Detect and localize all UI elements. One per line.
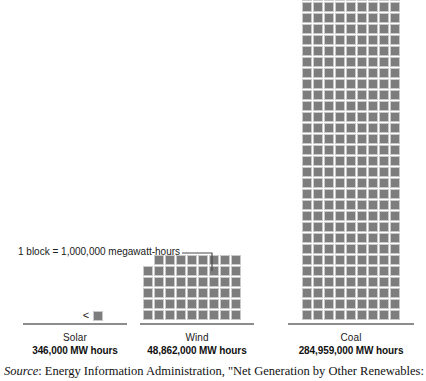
column-name-solar: Solar — [16, 332, 134, 344]
unit-block — [346, 167, 356, 177]
unit-block — [368, 255, 378, 265]
unit-block — [368, 244, 378, 254]
unit-block — [346, 68, 356, 78]
unit-block — [220, 299, 230, 309]
unit-block — [335, 13, 345, 23]
unit-block — [324, 222, 334, 232]
unit-block — [368, 134, 378, 144]
unit-block — [209, 288, 219, 298]
unit-block — [368, 233, 378, 243]
unit-block — [379, 2, 389, 12]
unit-block — [313, 0, 323, 1]
unit-block — [390, 266, 400, 276]
unit-block — [143, 299, 153, 309]
unit-block — [390, 101, 400, 111]
unit-block — [313, 35, 323, 45]
unit-block — [313, 145, 323, 155]
unit-block — [209, 277, 219, 287]
unit-block — [335, 266, 345, 276]
unit-block — [390, 156, 400, 166]
unit-block — [324, 79, 334, 89]
unit-block — [357, 123, 367, 133]
unit-block — [313, 90, 323, 100]
unit-block — [357, 167, 367, 177]
unit-block — [165, 277, 175, 287]
unit-block — [324, 244, 334, 254]
unit-block — [357, 2, 367, 12]
block-row — [302, 233, 400, 243]
unit-block — [220, 266, 230, 276]
unit-block — [154, 299, 164, 309]
column-name-coal: Coal — [276, 332, 426, 344]
unit-block — [390, 13, 400, 23]
unit-block — [302, 156, 312, 166]
unit-block — [335, 0, 345, 1]
unit-block — [324, 24, 334, 34]
unit-block — [379, 189, 389, 199]
unit-block — [324, 200, 334, 210]
unit-block — [368, 112, 378, 122]
column-label-coal: Coal 284,959,000 MW hours — [276, 332, 426, 357]
unit-block — [379, 57, 389, 67]
unit-block — [357, 90, 367, 100]
unit-block — [220, 255, 230, 265]
unit-block — [390, 79, 400, 89]
column-value-coal: 284,959,000 MW hours — [276, 345, 426, 357]
block-row — [302, 79, 400, 89]
column-value-solar: 346,000 MW hours — [16, 345, 134, 357]
unit-block — [379, 13, 389, 23]
unit-block — [302, 112, 312, 122]
unit-block — [390, 35, 400, 45]
block-row — [302, 178, 400, 188]
unit-block — [209, 310, 219, 320]
unit-block — [379, 0, 389, 1]
unit-block — [390, 255, 400, 265]
unit-block — [357, 35, 367, 45]
unit-block — [324, 46, 334, 56]
unit-block — [313, 211, 323, 221]
unit-block — [335, 277, 345, 287]
unit-block — [324, 2, 334, 12]
unit-block — [324, 310, 334, 320]
unit-block — [357, 211, 367, 221]
unit-block — [390, 134, 400, 144]
unit-block — [390, 178, 400, 188]
unit-block — [368, 266, 378, 276]
unit-block — [368, 310, 378, 320]
unit-legend-label: 1 block = 1,000,000 megawatt-hours — [18, 246, 180, 258]
block-row — [143, 288, 241, 298]
unit-block — [346, 134, 356, 144]
unit-block — [346, 79, 356, 89]
unit-block — [368, 222, 378, 232]
block-row — [302, 266, 400, 276]
unit-block — [346, 101, 356, 111]
unit-block — [324, 134, 334, 144]
unit-block — [357, 310, 367, 320]
unit-block — [302, 277, 312, 287]
unit-block — [368, 211, 378, 221]
unit-block — [313, 288, 323, 298]
unit-block — [335, 233, 345, 243]
unit-block — [313, 79, 323, 89]
column-label-wind: Wind 48,862,000 MW hours — [130, 332, 264, 357]
block-row — [302, 244, 400, 254]
unit-block — [335, 255, 345, 265]
source-text: : Energy Information Administration, "Ne… — [38, 364, 424, 378]
unit-block — [357, 233, 367, 243]
unit-block — [357, 189, 367, 199]
unit-block — [368, 200, 378, 210]
unit-block — [335, 134, 345, 144]
unit-block — [313, 310, 323, 320]
unit-block — [390, 123, 400, 133]
block-row — [302, 167, 400, 177]
unit-block — [368, 189, 378, 199]
unit-block — [302, 0, 312, 1]
baseline-wind — [140, 323, 254, 325]
unit-block — [302, 222, 312, 232]
unit-block — [357, 68, 367, 78]
unit-block — [335, 57, 345, 67]
unit-block — [220, 277, 230, 287]
block-row — [302, 57, 400, 67]
unit-block — [357, 244, 367, 254]
unit-block — [368, 145, 378, 155]
